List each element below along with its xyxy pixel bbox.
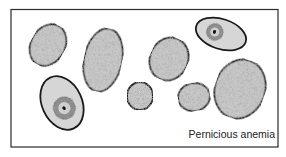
macrocyte-cell	[78, 25, 128, 96]
macrocyte-cell	[22, 17, 73, 72]
macrocyte-cell	[206, 52, 274, 125]
figure-caption: Pernicious anemia	[183, 128, 275, 140]
cells-group	[22, 12, 273, 137]
normocyte-cell	[127, 82, 153, 110]
normocyte-cell	[176, 80, 212, 113]
macrocyte-cell	[142, 31, 195, 87]
megaloblast-cell	[192, 12, 251, 57]
megaloblast-cell	[32, 69, 92, 137]
